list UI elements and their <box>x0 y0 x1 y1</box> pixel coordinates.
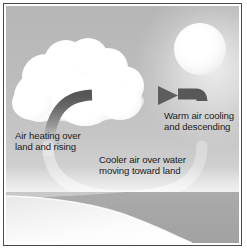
label-line: land and rising <box>15 141 81 152</box>
sea-breeze-diagram: Air heating over land and rising Warm ai… <box>0 0 247 251</box>
label-line: Cooler air over water <box>99 154 186 165</box>
label-line: Warm air cooling <box>164 110 234 121</box>
label-line: moving toward land <box>99 165 186 176</box>
figure-frame: Air heating over land and rising Warm ai… <box>3 3 242 246</box>
label-cooler-air: Cooler air over water moving toward land <box>99 154 186 177</box>
label-air-heating: Air heating over land and rising <box>15 130 81 153</box>
label-warm-air-cooling: Warm air cooling and descending <box>164 110 234 133</box>
label-line: and descending <box>164 121 234 132</box>
diagram-scene: Air heating over land and rising Warm ai… <box>6 6 239 243</box>
label-line: Air heating over <box>15 130 81 141</box>
